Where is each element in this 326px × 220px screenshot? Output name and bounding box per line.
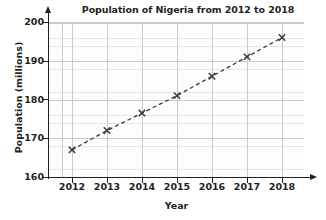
x-axis-line <box>48 177 311 178</box>
x-tick-label-2012: 2012 <box>52 181 92 192</box>
x-tick-label-2015: 2015 <box>157 181 197 192</box>
x-axis-title: Year <box>49 200 304 211</box>
chart-figure: Population of Nigeria from 2012 to 2018 … <box>0 0 326 220</box>
x-axis-arrow-icon <box>310 174 317 180</box>
y-axis-arrow-icon <box>45 6 51 13</box>
y-axis-line <box>48 12 49 179</box>
chart-title: Population of Nigeria from 2012 to 2018 <box>56 4 320 15</box>
x-tick-label-2014: 2014 <box>122 181 162 192</box>
x-tick-label-2018: 2018 <box>262 181 302 192</box>
y-tick-label-200: 200 <box>0 16 44 27</box>
y-tick-label-160: 160 <box>0 171 44 182</box>
y-axis-title: Population (millions) <box>13 33 24 163</box>
x-tick-label-2013: 2013 <box>87 181 127 192</box>
x-tick-label-2016: 2016 <box>192 181 232 192</box>
plot-area <box>49 22 304 177</box>
x-tick-label-2017: 2017 <box>227 181 267 192</box>
